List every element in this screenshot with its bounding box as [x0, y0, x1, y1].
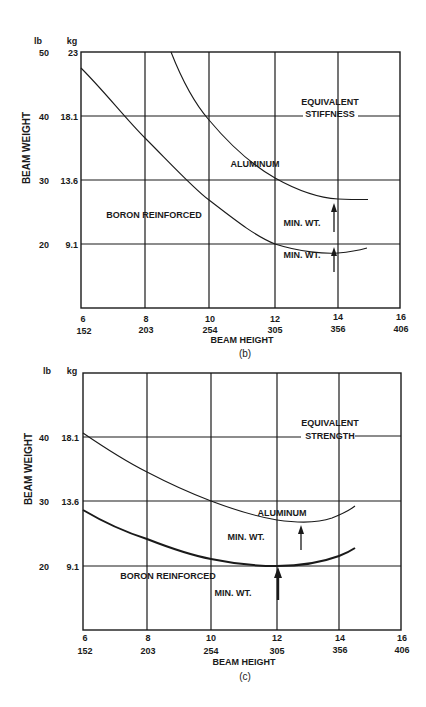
- figure-caption-b: (b): [239, 348, 251, 359]
- y-tick-kg: 9.1: [65, 240, 78, 250]
- x-tick-mm: 406: [394, 645, 409, 655]
- label-min-wt-aluminum: MIN. WT.: [228, 532, 265, 542]
- label-aluminum: ALUMINUM: [258, 508, 307, 518]
- x-tick-mm: 305: [269, 646, 284, 656]
- x-tick-in: 10: [206, 633, 216, 643]
- y-unit-kg: kg: [67, 36, 78, 46]
- x-tick-in: 14: [333, 312, 343, 322]
- x-tick-mm: 254: [203, 646, 218, 656]
- y-tick-lb: 20: [39, 240, 49, 250]
- chart-b-title-line1: EQUIVALENT: [301, 97, 359, 107]
- y-tick-lb: 30: [39, 176, 49, 186]
- x-tick-in: 12: [270, 314, 280, 324]
- y-unit-lb: lb: [34, 36, 43, 46]
- x-tick-mm: 356: [330, 324, 345, 334]
- y-tick-lb: 50: [39, 48, 49, 58]
- x-tick-mm: 305: [267, 325, 282, 335]
- curve-boron-reinforced: [83, 510, 355, 566]
- curve-aluminum: [83, 433, 355, 522]
- chart-c-title-line1: EQUIVALENT: [301, 418, 359, 428]
- y-tick-lb: 40: [39, 433, 49, 443]
- y-tick-kg: 23: [68, 48, 78, 58]
- grid: [81, 52, 400, 308]
- label-min-wt-aluminum: MIN. WT.: [284, 218, 321, 228]
- x-tick-mm: 254: [202, 325, 217, 335]
- y-unit-kg: kg: [67, 366, 78, 376]
- y-tick-lb: 20: [39, 562, 49, 572]
- y-tick-kg: 9.1: [66, 562, 79, 572]
- x-tick-in: 16: [397, 633, 407, 643]
- label-min-wt-boron: MIN. WT.: [215, 588, 252, 598]
- x-ticks-in: 6 8 10 12 14 16: [80, 312, 406, 324]
- y-tick-lb: 30: [39, 497, 49, 507]
- y-unit-lb: lb: [43, 366, 52, 376]
- x-tick-mm: 203: [138, 325, 153, 335]
- x-tick-in: 6: [80, 314, 85, 324]
- arrow-up-icon: [298, 525, 304, 550]
- label-aluminum: ALUMINUM: [231, 159, 280, 169]
- x-axis-label: BEAM HEIGHT: [213, 657, 277, 667]
- chart-b: lb kg BEAM WEIGHT 50 40 30 20 23 18.1 13…: [0, 0, 426, 360]
- x-tick-in: 6: [82, 633, 87, 643]
- arrow-up-icon: [331, 203, 337, 232]
- x-axis-label: BEAM HEIGHT: [211, 335, 275, 345]
- x-tick-mm: 203: [140, 646, 155, 656]
- x-ticks-mm: 152 203 254 305 356 406: [77, 645, 409, 656]
- chart-c-svg: lb kg BEAM WEIGHT 40 30 20 18.1 13.6 9.1…: [0, 360, 426, 707]
- curve-boron-reinforced: [81, 68, 367, 253]
- x-tick-mm: 152: [77, 646, 92, 656]
- x-tick-in: 10: [205, 314, 215, 324]
- x-tick-mm: 152: [76, 326, 91, 336]
- y-axis-label: BEAM WEIGHT: [23, 433, 34, 505]
- chart-c-title-line2: STRENGTH: [305, 431, 355, 441]
- arrow-up-icon: [274, 567, 282, 600]
- y-tick-lb: 40: [39, 112, 49, 122]
- arrow-up-icon: [331, 247, 337, 272]
- chart-c: lb kg BEAM WEIGHT 40 30 20 18.1 13.6 9.1…: [0, 360, 426, 707]
- y-tick-kg: 13.6: [60, 176, 78, 186]
- x-tick-mm: 356: [332, 645, 347, 655]
- y-tick-kg: 13.6: [61, 497, 79, 507]
- y-tick-kg: 18.1: [61, 433, 79, 443]
- label-boron-reinforced: BORON REINFORCED: [106, 210, 202, 220]
- y-axis-label: BEAM WEIGHT: [21, 112, 32, 184]
- x-ticks-in: 6 8 10 12 14 16: [82, 633, 407, 643]
- y-tick-kg: 18.1: [60, 112, 78, 122]
- label-boron-reinforced: BORON REINFORCED: [120, 571, 216, 581]
- x-tick-in: 14: [335, 633, 345, 643]
- chart-b-svg: lb kg BEAM WEIGHT 50 40 30 20 23 18.1 13…: [0, 0, 426, 360]
- chart-b-title-line2: STIFFNESS: [305, 109, 355, 119]
- x-tick-mm: 406: [393, 324, 408, 334]
- label-min-wt-boron: MIN. WT.: [284, 250, 321, 260]
- x-tick-in: 8: [145, 633, 150, 643]
- x-tick-in: 8: [143, 314, 148, 324]
- figure-caption-c: (c): [239, 671, 251, 682]
- x-tick-in: 12: [272, 633, 282, 643]
- x-tick-in: 16: [396, 312, 406, 322]
